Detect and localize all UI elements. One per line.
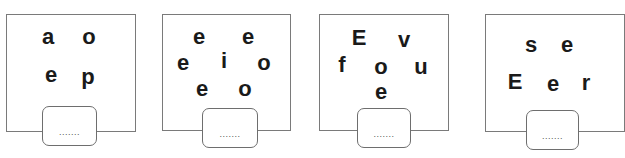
- answer-placeholder: .......: [43, 128, 96, 137]
- puzzle-2-letter: o: [238, 78, 251, 100]
- puzzle-3-letter: E: [352, 27, 367, 49]
- puzzle-2-letter: e: [193, 26, 205, 48]
- puzzle-2-letter: e: [177, 52, 189, 74]
- puzzle-1-letter: e: [45, 64, 57, 86]
- answer-field-3[interactable]: .......: [357, 108, 411, 148]
- puzzle-4-letter: s: [525, 34, 537, 56]
- puzzle-3-letter: v: [398, 29, 410, 51]
- answer-field-1[interactable]: .......: [42, 106, 97, 146]
- puzzle-2-letter: e: [196, 78, 208, 100]
- answer-placeholder: .......: [527, 132, 578, 141]
- puzzle-2-letter: i: [221, 50, 227, 72]
- puzzle-4-letter: E: [508, 71, 523, 93]
- puzzle-3-letter: u: [414, 56, 427, 78]
- answer-field-2[interactable]: .......: [202, 108, 258, 148]
- puzzle-3-letter: f: [338, 54, 345, 76]
- answer-placeholder: .......: [358, 130, 410, 139]
- puzzle-2-letter: o: [257, 52, 270, 74]
- answer-placeholder: .......: [203, 130, 257, 139]
- puzzle-1-letter: a: [42, 26, 54, 48]
- answer-field-4[interactable]: .......: [526, 110, 579, 150]
- puzzle-4-letter: r: [582, 72, 591, 94]
- puzzle-4-letter: e: [547, 73, 559, 95]
- puzzle-2-letter: e: [242, 26, 254, 48]
- puzzle-4-letter: e: [561, 34, 573, 56]
- puzzle-1-letter: o: [82, 26, 95, 48]
- puzzle-1-letter: p: [81, 66, 94, 88]
- puzzle-3-letter: e: [375, 81, 387, 103]
- puzzle-3-letter: o: [374, 56, 387, 78]
